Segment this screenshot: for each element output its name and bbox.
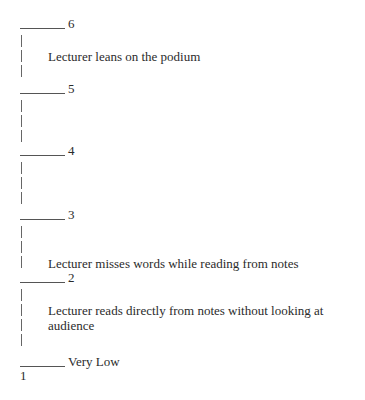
- scale-pipe: [21, 177, 22, 189]
- scale-pipe: [21, 100, 22, 112]
- scale-pipe: [21, 241, 22, 253]
- scale-pipe: [21, 35, 22, 47]
- scale-pipe: [21, 50, 22, 62]
- level-label: 5: [68, 81, 75, 96]
- scale-rule: [20, 93, 65, 94]
- level-label: 3: [68, 207, 75, 222]
- scale-pipe: [21, 192, 22, 204]
- scale-pipe: [21, 256, 22, 268]
- level-label: 2: [68, 270, 75, 285]
- rating-scale-document: 6 Lecturer leans on the podium 5 4 3 Lec…: [0, 0, 365, 400]
- scale-rule: [20, 366, 65, 367]
- level-description: Lecturer leans on the podium: [48, 49, 200, 64]
- scale-rule: [20, 282, 65, 283]
- scale-pipe: [21, 304, 22, 316]
- scale-rule: [20, 155, 65, 156]
- scale-pipe: [21, 162, 22, 174]
- level-description: Lecturer reads directly from notes witho…: [48, 303, 365, 333]
- level-description: Lecturer misses words while reading from…: [48, 256, 299, 271]
- scale-pipe: [21, 319, 22, 331]
- level-label: 4: [68, 143, 75, 158]
- level-label: Very Low: [68, 354, 120, 369]
- scale-pipe: [21, 130, 22, 142]
- level-label: 6: [68, 16, 75, 31]
- scale-pipe: [21, 226, 22, 238]
- scale-pipe: [21, 115, 22, 127]
- scale-pipe: [21, 289, 22, 301]
- bottom-number: 1: [20, 368, 27, 383]
- scale-rule: [20, 28, 65, 29]
- scale-pipe: [21, 334, 22, 346]
- scale-rule: [20, 219, 65, 220]
- scale-pipe: [21, 65, 22, 77]
